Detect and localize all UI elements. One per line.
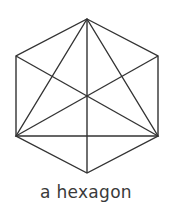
- hexagon-diagram: [0, 0, 172, 182]
- figure-caption: a hexagon: [0, 181, 172, 203]
- hexagon-figure: a hexagon: [0, 0, 172, 213]
